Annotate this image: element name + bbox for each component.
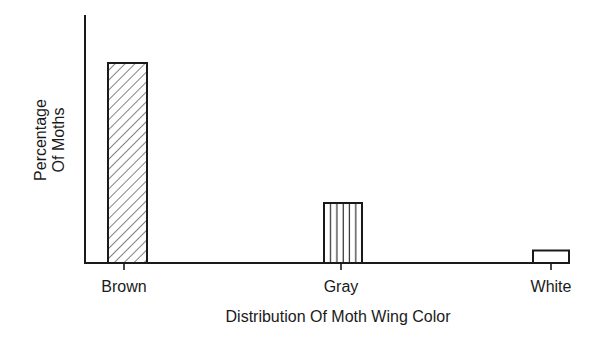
category-label-gray: Gray: [324, 278, 359, 295]
y-axis-title: Percentage Of Moths: [32, 99, 67, 181]
category-label-brown: Brown: [101, 278, 146, 295]
bar-gray: [324, 203, 362, 263]
bar-chart: Brown Gray White Distribution Of Moth Wi…: [0, 0, 608, 354]
x-axis-title: Distribution Of Moth Wing Color: [226, 308, 452, 325]
bar-white: [533, 251, 569, 264]
y-axis-title-line1: Percentage: [32, 99, 49, 181]
y-axis-title-line2: Of Moths: [50, 108, 67, 173]
bar-brown: [108, 63, 147, 263]
category-label-white: White: [531, 278, 572, 295]
